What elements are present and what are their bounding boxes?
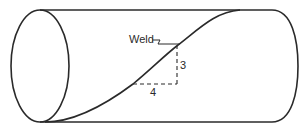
weld-seam — [45, 10, 240, 122]
weld-leader-line — [152, 40, 180, 44]
weld-label: Weld — [129, 33, 154, 45]
cylinder-diagram: Weld 3 4 — [0, 0, 308, 131]
rise-label: 3 — [180, 59, 186, 71]
cylinder-left-end — [11, 10, 69, 122]
cylinder-right-end — [272, 10, 298, 122]
run-label: 4 — [150, 86, 156, 98]
